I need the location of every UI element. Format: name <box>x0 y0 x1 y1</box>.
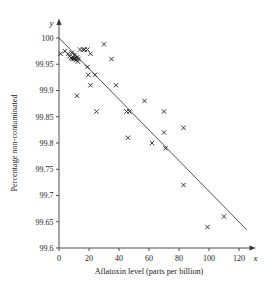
y-tick-label-5: 99.85 <box>36 113 54 122</box>
x-axis-title: Aflatoxin level (parts per billion) <box>95 267 204 276</box>
x-tick-label-3: 60 <box>145 254 153 263</box>
y-tick-label-2: 99.7 <box>40 191 54 200</box>
data-point <box>222 214 226 218</box>
data-point <box>181 183 185 187</box>
y-tick-label-8: 100 <box>42 34 54 43</box>
plot-area: 99.699.6599.799.7599.899.8599.999.951000… <box>0 0 264 290</box>
data-point <box>162 130 166 134</box>
x-tick-label-2: 40 <box>115 254 123 263</box>
x-tick-label-1: 20 <box>85 254 93 263</box>
data-point <box>85 47 89 51</box>
data-point <box>88 52 92 56</box>
data-point <box>126 136 130 140</box>
data-point <box>162 109 166 113</box>
y-axis-arrow-icon <box>56 19 61 26</box>
x-tick-label-0: 0 <box>57 254 61 263</box>
y-tick-label-4: 99.8 <box>40 139 54 148</box>
data-point <box>94 109 98 113</box>
data-point <box>142 99 146 103</box>
data-point <box>102 42 106 46</box>
y-tick-label-3: 99.75 <box>36 165 54 174</box>
x-tick-label-6: 120 <box>233 254 245 263</box>
data-point <box>85 65 89 69</box>
scatter-chart: 99.699.6599.799.7599.899.8599.999.951000… <box>0 0 264 290</box>
data-point <box>205 225 209 229</box>
x-axis-arrow-icon <box>250 245 257 250</box>
y-tick-label-1: 99.65 <box>36 218 54 227</box>
data-point <box>109 57 113 61</box>
data-point <box>88 83 92 87</box>
data-point <box>93 73 97 77</box>
x-axis-symbol: x <box>253 253 258 263</box>
x-tick-label-4: 80 <box>175 254 183 263</box>
data-point <box>181 126 185 130</box>
x-tick-label-5: 100 <box>203 254 215 263</box>
data-point <box>86 73 90 77</box>
y-tick-label-6: 99.9 <box>40 86 54 95</box>
data-point <box>75 94 79 98</box>
data-point <box>150 141 154 145</box>
y-tick-label-0: 99.6 <box>40 244 54 253</box>
data-point <box>114 83 118 87</box>
y-tick-label-7: 99.95 <box>36 60 54 69</box>
y-axis-symbol: y <box>49 18 54 28</box>
y-axis-title: Percentage non-contaminated <box>10 94 19 191</box>
